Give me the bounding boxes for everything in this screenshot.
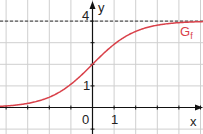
curve-label-subscript: f <box>190 31 193 41</box>
curve-label-main: G <box>180 24 190 39</box>
grid-lines <box>0 0 203 134</box>
x-axis-label: x <box>190 114 197 129</box>
y-axis-arrow-icon <box>90 1 96 9</box>
x-tick-label-1: 1 <box>111 112 118 127</box>
x-tick-label-0: 0 <box>82 112 89 127</box>
x-axis-arrow-icon <box>195 105 203 111</box>
y-tick-label-4: 4 <box>82 8 89 23</box>
y-axis-label: y <box>98 0 105 15</box>
curve-label: Gf <box>180 24 193 41</box>
function-graph: y x 0 1 1 4 Gf <box>0 0 203 134</box>
y-tick-label-1: 1 <box>83 78 90 93</box>
